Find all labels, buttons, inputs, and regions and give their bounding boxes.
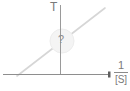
x-axis-end-tick-icon [108, 72, 111, 78]
y-axis-label: T [50, 1, 57, 13]
question-mark-label: ? [58, 34, 64, 45]
lineweaver-burk-plot-figure: T ? 1 [S] [0, 0, 130, 91]
x-axis-label-numerator: 1 [113, 60, 129, 71]
x-axis-label-denominator: [S] [113, 74, 129, 85]
x-axis-label: 1 [S] [113, 60, 129, 85]
fraction-bar [114, 72, 128, 73]
plot-canvas [0, 0, 130, 91]
